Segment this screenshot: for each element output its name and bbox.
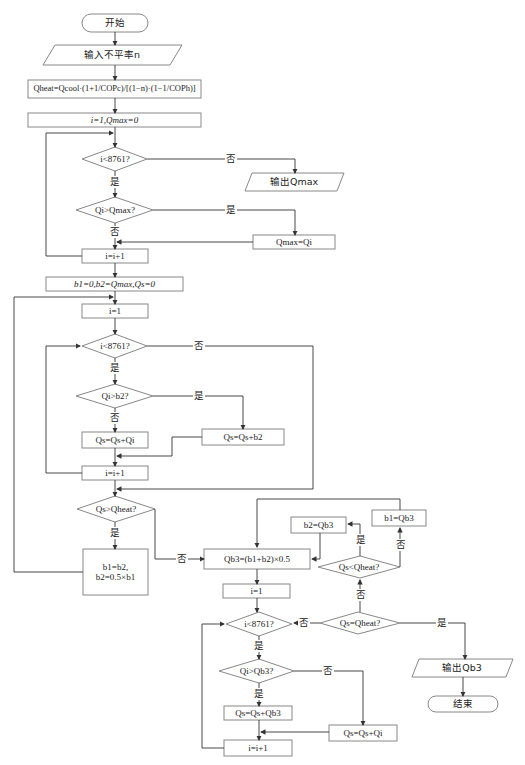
start-terminal: 开始 (82, 14, 148, 32)
label-no: 否 (225, 153, 237, 165)
bisect-qb3: Qb3=(b1+b2)×0.5 (204, 549, 310, 569)
label-yes: 是 (253, 640, 265, 652)
less-qs-qheat: Qs<Qheat? (318, 556, 400, 578)
compare-qi-qmax: Qi>Qmax? (76, 197, 154, 223)
set-b1-qb3: b1=Qb3 (372, 510, 426, 526)
equal-qs-qheat: Qs=Qheat? (320, 612, 400, 634)
assign-qmax: Qmax=Qi (253, 235, 335, 249)
label-no: 否 (298, 617, 310, 629)
label-no: 否 (395, 539, 407, 551)
output-qb3: 输出Qb3 (415, 659, 509, 677)
init-i-3: i=1 (223, 584, 290, 598)
label-yes: 是 (355, 534, 367, 546)
output-qmax: 输出Qmax (248, 173, 340, 191)
increment-i-3: i=i+1 (224, 740, 292, 756)
compare-qi-b2: Qi>b2? (76, 384, 154, 408)
label-yes: 是 (109, 527, 121, 539)
label-yes: 是 (253, 688, 265, 700)
label-no: 否 (109, 226, 121, 238)
end-terminal: 结束 (428, 696, 498, 712)
label-no: 否 (109, 412, 121, 424)
accumulate-b2: Qs=Qs+b2 (202, 429, 284, 445)
label-yes: 是 (436, 617, 448, 629)
accumulate-qi: Qs=Qs+Qi (82, 432, 148, 448)
label-yes: 是 (109, 362, 121, 374)
accumulate-qi-3: Qs=Qs+Qi (329, 725, 397, 741)
loop3-condition: i<8761? (226, 612, 292, 636)
set-b2-qb3: b2=Qb3 (291, 517, 346, 533)
update-b1-b2: b1=b2, b2=0.5×b1 (83, 549, 148, 595)
label-yes: 是 (225, 204, 237, 216)
input-imbalance-rate: 输入不平率n (48, 45, 176, 65)
label-yes: 是 (193, 390, 205, 402)
compare-qs-qheat: Qs>Qheat? (77, 496, 155, 522)
label-yes: 是 (109, 176, 121, 188)
init-b1-b2-qs: b1=0,b2=Qmax,Qs=0 (46, 277, 183, 291)
label-no: 否 (193, 340, 205, 352)
loop2-condition: i<8761? (82, 334, 148, 358)
accumulate-qb3: Qs=Qs+Qb3 (224, 706, 292, 720)
label-no: 否 (176, 553, 188, 565)
init-i-2: i=1 (82, 304, 148, 318)
compare-qi-qb3: Qi>Qb3? (219, 659, 294, 683)
heat-formula-box: Qheat=Qcool·(1+1/COPc)/[(1−n)·(1−1/COPh)… (28, 80, 201, 98)
init-i-qmax: i=1,Qmax=0 (28, 113, 201, 127)
label-no: 否 (322, 665, 334, 677)
label-no: 否 (355, 589, 367, 601)
loop1-condition: i<8761? (82, 147, 148, 171)
increment-i-1: i=i+1 (82, 249, 148, 263)
increment-i-2: i=i+1 (82, 466, 148, 480)
